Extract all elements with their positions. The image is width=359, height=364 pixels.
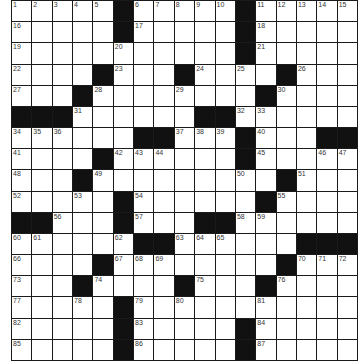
grid-cell[interactable] bbox=[338, 170, 357, 190]
grid-cell[interactable] bbox=[236, 297, 255, 317]
grid-cell[interactable]: 65 bbox=[216, 234, 235, 254]
grid-cell[interactable] bbox=[93, 340, 112, 360]
grid-cell[interactable]: 68 bbox=[134, 255, 153, 275]
grid-cell[interactable]: 34 bbox=[12, 128, 31, 148]
grid-cell[interactable]: 66 bbox=[12, 255, 31, 275]
grid-cell[interactable] bbox=[53, 149, 72, 169]
grid-cell[interactable] bbox=[216, 255, 235, 275]
grid-cell[interactable] bbox=[154, 170, 173, 190]
grid-cell[interactable]: 13 bbox=[297, 1, 316, 21]
grid-cell[interactable]: 70 bbox=[297, 255, 316, 275]
grid-cell[interactable]: 83 bbox=[134, 319, 153, 339]
grid-cell[interactable] bbox=[317, 192, 336, 212]
grid-cell[interactable]: 27 bbox=[12, 86, 31, 106]
grid-cell[interactable] bbox=[256, 234, 275, 254]
grid-cell[interactable]: 3 bbox=[53, 1, 72, 21]
grid-cell[interactable] bbox=[32, 22, 51, 42]
grid-cell[interactable] bbox=[53, 340, 72, 360]
grid-cell[interactable]: 12 bbox=[277, 1, 296, 21]
grid-cell[interactable] bbox=[93, 107, 112, 127]
grid-cell[interactable] bbox=[297, 192, 316, 212]
grid-cell[interactable] bbox=[53, 319, 72, 339]
grid-cell[interactable] bbox=[154, 65, 173, 85]
grid-cell[interactable]: 47 bbox=[338, 149, 357, 169]
grid-cell[interactable] bbox=[175, 107, 194, 127]
grid-cell[interactable]: 60 bbox=[12, 234, 31, 254]
grid-cell[interactable] bbox=[32, 149, 51, 169]
grid-cell[interactable]: 26 bbox=[297, 65, 316, 85]
grid-cell[interactable]: 85 bbox=[12, 340, 31, 360]
grid-cell[interactable]: 87 bbox=[256, 340, 275, 360]
grid-cell[interactable] bbox=[297, 128, 316, 148]
grid-cell[interactable] bbox=[93, 297, 112, 317]
grid-cell[interactable] bbox=[53, 65, 72, 85]
grid-cell[interactable] bbox=[277, 128, 296, 148]
grid-cell[interactable] bbox=[114, 276, 133, 296]
grid-cell[interactable] bbox=[53, 192, 72, 212]
grid-cell[interactable] bbox=[338, 107, 357, 127]
grid-cell[interactable] bbox=[317, 170, 336, 190]
grid-cell[interactable] bbox=[134, 276, 153, 296]
grid-cell[interactable]: 46 bbox=[317, 149, 336, 169]
grid-cell[interactable]: 61 bbox=[32, 234, 51, 254]
grid-cell[interactable] bbox=[154, 107, 173, 127]
grid-cell[interactable] bbox=[317, 86, 336, 106]
grid-cell[interactable]: 40 bbox=[256, 128, 275, 148]
grid-cell[interactable] bbox=[175, 192, 194, 212]
grid-cell[interactable]: 41 bbox=[12, 149, 31, 169]
grid-cell[interactable] bbox=[53, 276, 72, 296]
grid-cell[interactable] bbox=[32, 170, 51, 190]
grid-cell[interactable] bbox=[195, 170, 214, 190]
grid-cell[interactable] bbox=[297, 297, 316, 317]
grid-cell[interactable] bbox=[32, 192, 51, 212]
grid-cell[interactable]: 74 bbox=[93, 276, 112, 296]
grid-cell[interactable]: 36 bbox=[53, 128, 72, 148]
grid-cell[interactable] bbox=[338, 192, 357, 212]
grid-cell[interactable] bbox=[277, 319, 296, 339]
grid-cell[interactable]: 71 bbox=[317, 255, 336, 275]
grid-cell[interactable]: 32 bbox=[236, 107, 255, 127]
grid-cell[interactable] bbox=[277, 234, 296, 254]
grid-cell[interactable] bbox=[32, 340, 51, 360]
grid-cell[interactable] bbox=[154, 43, 173, 63]
grid-cell[interactable] bbox=[195, 297, 214, 317]
grid-cell[interactable] bbox=[256, 65, 275, 85]
grid-cell[interactable] bbox=[195, 192, 214, 212]
grid-cell[interactable] bbox=[338, 86, 357, 106]
grid-cell[interactable]: 84 bbox=[256, 319, 275, 339]
grid-cell[interactable]: 45 bbox=[256, 149, 275, 169]
grid-cell[interactable] bbox=[338, 65, 357, 85]
grid-cell[interactable] bbox=[73, 234, 92, 254]
grid-cell[interactable] bbox=[93, 234, 112, 254]
grid-cell[interactable]: 14 bbox=[317, 1, 336, 21]
grid-cell[interactable] bbox=[317, 297, 336, 317]
grid-cell[interactable] bbox=[317, 107, 336, 127]
grid-cell[interactable]: 21 bbox=[256, 43, 275, 63]
grid-cell[interactable]: 16 bbox=[12, 22, 31, 42]
grid-cell[interactable] bbox=[154, 213, 173, 233]
grid-cell[interactable]: 23 bbox=[114, 65, 133, 85]
grid-cell[interactable] bbox=[154, 340, 173, 360]
grid-cell[interactable]: 55 bbox=[277, 192, 296, 212]
grid-cell[interactable]: 43 bbox=[134, 149, 153, 169]
grid-cell[interactable] bbox=[277, 340, 296, 360]
grid-cell[interactable] bbox=[338, 213, 357, 233]
grid-cell[interactable] bbox=[297, 213, 316, 233]
grid-cell[interactable] bbox=[32, 43, 51, 63]
grid-cell[interactable] bbox=[338, 43, 357, 63]
grid-cell[interactable]: 67 bbox=[114, 255, 133, 275]
grid-cell[interactable]: 80 bbox=[175, 297, 194, 317]
grid-cell[interactable] bbox=[175, 22, 194, 42]
grid-cell[interactable] bbox=[154, 192, 173, 212]
grid-cell[interactable] bbox=[175, 319, 194, 339]
grid-cell[interactable] bbox=[134, 107, 153, 127]
grid-cell[interactable] bbox=[317, 213, 336, 233]
grid-cell[interactable]: 8 bbox=[175, 1, 194, 21]
grid-cell[interactable]: 49 bbox=[93, 170, 112, 190]
grid-cell[interactable] bbox=[73, 43, 92, 63]
grid-cell[interactable] bbox=[195, 255, 214, 275]
grid-cell[interactable] bbox=[175, 43, 194, 63]
grid-cell[interactable]: 6 bbox=[134, 1, 153, 21]
grid-cell[interactable]: 42 bbox=[114, 149, 133, 169]
grid-cell[interactable] bbox=[175, 170, 194, 190]
